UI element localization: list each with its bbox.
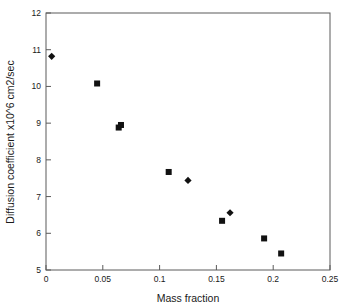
y-tick-label: 9 [36, 118, 41, 128]
y-tick-label: 6 [36, 228, 41, 238]
x-tick-label: 0.05 [95, 274, 112, 284]
data-point-square [219, 218, 225, 224]
y-axis-ticks [46, 13, 51, 270]
data-point-diamond [184, 177, 191, 184]
data-point-diamond [48, 53, 55, 60]
x-tick-label: 0.15 [208, 274, 225, 284]
x-axis-tick-labels: 00.050.10.150.20.25 [44, 274, 339, 284]
y-axis-tick-labels: 56789101112 [32, 8, 42, 275]
x-tick-label: 0 [44, 274, 49, 284]
data-point-square [94, 80, 100, 86]
data-point-square [166, 169, 172, 175]
y-tick-label: 11 [32, 45, 41, 55]
y-axis-title: Diffusion coefficient x10^6 cm2/sec [4, 60, 16, 223]
data-point-diamond [226, 209, 233, 216]
x-tick-label: 0.25 [322, 274, 339, 284]
x-tick-label: 0.2 [267, 274, 279, 284]
scatter-chart-figure: 00.050.10.150.20.25 56789101112 Mass fra… [0, 0, 345, 308]
x-axis-title: Mass fraction [157, 292, 220, 304]
x-axis-ticks [46, 265, 330, 270]
y-tick-label: 5 [36, 265, 41, 275]
data-point-square [278, 250, 284, 256]
y-tick-label: 8 [36, 155, 41, 165]
data-point-square [118, 122, 124, 128]
y-tick-label: 10 [32, 81, 42, 91]
plot-frame [46, 13, 330, 270]
data-point-markers [48, 53, 284, 257]
data-point-square [261, 235, 267, 241]
y-tick-label: 12 [32, 8, 42, 18]
plot-canvas: 00.050.10.150.20.25 56789101112 Mass fra… [0, 0, 345, 308]
y-tick-label: 7 [36, 192, 41, 202]
x-tick-label: 0.1 [154, 274, 166, 284]
